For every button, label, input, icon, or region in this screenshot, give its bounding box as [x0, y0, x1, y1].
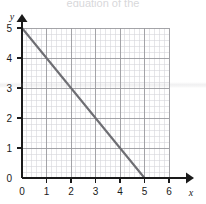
y-tick-label-0: 0 — [6, 173, 12, 184]
x-tick-labels: 0 1 2 3 4 5 6 — [19, 186, 172, 197]
x-axis-arrowhead — [186, 173, 194, 184]
y-tick-label-2: 2 — [6, 113, 12, 124]
x-tick-label-5: 5 — [142, 186, 148, 197]
plotted-line-series-0 — [22, 28, 145, 178]
x-tick-label-2: 2 — [68, 186, 74, 197]
y-tick-label-3: 3 — [6, 83, 12, 94]
x-tick-label-6: 6 — [166, 186, 172, 197]
y-tick-label-4: 4 — [6, 53, 12, 64]
x-tick-label-0: 0 — [19, 186, 25, 197]
y-tick-label-1: 1 — [6, 143, 12, 154]
x-tick-label-3: 3 — [93, 186, 99, 197]
y-axis-arrowhead — [17, 14, 28, 22]
x-axis-label: x — [188, 187, 194, 198]
graph-figure: equation of the — [0, 0, 206, 204]
y-tick-label-5: 5 — [6, 23, 12, 34]
x-tick-label-1: 1 — [44, 186, 50, 197]
y-axis-label: y — [9, 11, 15, 22]
major-gridlines — [22, 28, 169, 178]
x-tick-label-4: 4 — [117, 186, 123, 197]
y-tick-labels: 0 1 2 3 4 5 — [6, 23, 12, 184]
coordinate-plane: 0 1 2 3 4 5 6 0 1 2 3 4 5 x y — [0, 0, 206, 204]
